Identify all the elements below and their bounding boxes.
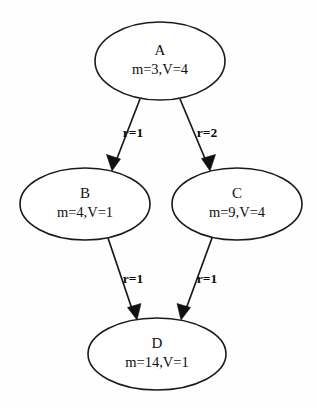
node-d[interactable]: D m=14,V=1 bbox=[88, 318, 226, 390]
edge-b-d-label: r=1 bbox=[123, 271, 144, 286]
edge-a-b-label: r=1 bbox=[123, 125, 144, 140]
node-b-attributes: m=4,V=1 bbox=[57, 204, 113, 220]
node-d-attributes: m=14,V=1 bbox=[125, 354, 188, 370]
edge-a-b[interactable]: r=1 bbox=[107, 99, 144, 171]
graph-svg: r=1 r=2 r=1 r=1 A m=3,V=4 B m=4,V=1 bbox=[0, 0, 317, 408]
edge-a-c-label: r=2 bbox=[197, 125, 218, 140]
edge-c-d[interactable]: r=1 bbox=[177, 238, 217, 320]
node-b-label: B bbox=[80, 185, 90, 201]
node-c-attributes: m=9,V=4 bbox=[209, 204, 266, 220]
node-c[interactable]: C m=9,V=4 bbox=[172, 168, 302, 240]
edge-c-d-label: r=1 bbox=[197, 271, 218, 286]
node-a-attributes: m=3,V=4 bbox=[132, 61, 189, 77]
edge-b-d-arrowhead bbox=[128, 304, 142, 321]
node-c-label: C bbox=[232, 185, 242, 201]
node-a-label: A bbox=[155, 42, 166, 58]
edge-c-d-arrowhead bbox=[177, 304, 191, 321]
node-d-label: D bbox=[152, 335, 163, 351]
diagram-canvas: r=1 r=2 r=1 r=1 A m=3,V=4 B m=4,V=1 bbox=[0, 0, 317, 408]
node-a[interactable]: A m=3,V=4 bbox=[95, 22, 225, 100]
node-b[interactable]: B m=4,V=1 bbox=[20, 168, 150, 240]
edge-a-c[interactable]: r=2 bbox=[180, 99, 217, 171]
edge-b-d[interactable]: r=1 bbox=[108, 238, 143, 320]
